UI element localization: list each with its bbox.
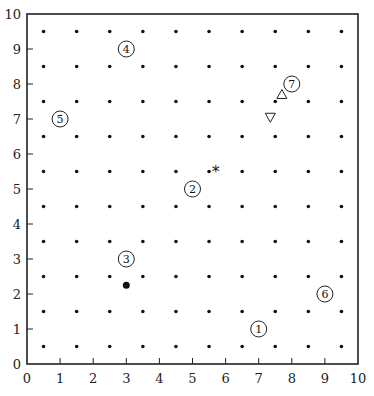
- grid-dot: [307, 170, 311, 174]
- grid-dot: [141, 240, 145, 244]
- grid-dot: [174, 310, 178, 314]
- x-tick-label: 2: [89, 371, 97, 386]
- grid-dot: [207, 345, 211, 349]
- x-tick-label: 10: [350, 371, 367, 386]
- grid-dot: [174, 240, 178, 244]
- grid-dot: [307, 100, 311, 104]
- grid-dot: [340, 345, 344, 349]
- grid-dot: [108, 65, 112, 69]
- grid-dot: [240, 345, 244, 349]
- grid-dot: [108, 30, 112, 34]
- grid-dot: [273, 65, 277, 69]
- grid-dot: [240, 100, 244, 104]
- grid-dot: [42, 345, 46, 349]
- grid-dot: [240, 240, 244, 244]
- y-tick-label: 9: [13, 42, 21, 57]
- triangle-down-marker: [265, 113, 275, 122]
- circled-label-6: 6: [317, 286, 333, 302]
- grid-dot: [75, 30, 79, 34]
- markers: 1234567*: [52, 41, 333, 337]
- grid-dot: [42, 205, 46, 209]
- grid-dot: [75, 275, 79, 279]
- grid-dot: [42, 310, 46, 314]
- grid-dot: [141, 170, 145, 174]
- grid-dot: [75, 135, 79, 139]
- grid-dot: [207, 205, 211, 209]
- grid-dot: [340, 275, 344, 279]
- y-tick-label: 8: [13, 77, 21, 92]
- grid-dot: [273, 310, 277, 314]
- x-tick-label: 7: [255, 371, 263, 386]
- grid-dot: [75, 345, 79, 349]
- grid-dot: [340, 310, 344, 314]
- grid-dot: [273, 345, 277, 349]
- grid-dot: [141, 135, 145, 139]
- grid-dot: [307, 205, 311, 209]
- grid-dot: [240, 65, 244, 69]
- circled-label-4: 4: [118, 41, 134, 57]
- grid-dot: [141, 100, 145, 104]
- axis-ticks: 012345678910012345678910: [4, 7, 366, 386]
- y-tick-label: 6: [13, 147, 21, 162]
- triangle-up-marker: [277, 90, 287, 99]
- grid-dot: [174, 205, 178, 209]
- grid-dot: [340, 205, 344, 209]
- grid-dot: [273, 240, 277, 244]
- x-tick-label: 4: [155, 371, 163, 386]
- grid-dot: [174, 65, 178, 69]
- grid-dot: [240, 205, 244, 209]
- grid-dot: [340, 65, 344, 69]
- svg-text:3: 3: [123, 253, 130, 266]
- circled-label-5: 5: [52, 111, 68, 127]
- y-tick-label: 3: [13, 252, 21, 267]
- grid-dot: [141, 30, 145, 34]
- grid-dot: [141, 345, 145, 349]
- grid-dot: [207, 170, 211, 174]
- grid-dot: [42, 170, 46, 174]
- grid-dot: [141, 310, 145, 314]
- grid-dot: [108, 275, 112, 279]
- y-tick-label: 7: [13, 112, 21, 127]
- grid-dot: [141, 275, 145, 279]
- grid-dot: [340, 100, 344, 104]
- grid-dot: [174, 345, 178, 349]
- grid-dot: [75, 310, 79, 314]
- grid-dot: [174, 170, 178, 174]
- circled-label-7: 7: [284, 76, 300, 92]
- grid-dot: [75, 65, 79, 69]
- circled-label-2: 2: [185, 181, 201, 197]
- y-tick-label: 10: [4, 7, 21, 22]
- y-tick-label: 0: [13, 357, 21, 372]
- asterisk-marker: *: [212, 162, 220, 181]
- x-tick-label: 6: [221, 371, 229, 386]
- grid-dot: [207, 100, 211, 104]
- circled-label-1: 1: [251, 321, 267, 337]
- svg-text:6: 6: [321, 288, 328, 301]
- grid-dot: [108, 170, 112, 174]
- x-tick-label: 0: [23, 371, 31, 386]
- grid-dot: [42, 135, 46, 139]
- grid-dot: [273, 30, 277, 34]
- grid-dot: [141, 65, 145, 69]
- grid-dot: [273, 170, 277, 174]
- grid-dot: [307, 135, 311, 139]
- x-tick-label: 9: [321, 371, 329, 386]
- grid-dot: [108, 100, 112, 104]
- grid-dot: [273, 205, 277, 209]
- grid-dot: [42, 30, 46, 34]
- grid-dot: [174, 275, 178, 279]
- grid-dot: [340, 135, 344, 139]
- svg-text:1: 1: [255, 323, 262, 336]
- y-tick-label: 5: [13, 182, 21, 197]
- scatter-chart: 012345678910012345678910 1234567*: [0, 0, 374, 396]
- grid-dot: [307, 65, 311, 69]
- grid-dot: [307, 240, 311, 244]
- grid-dot: [307, 310, 311, 314]
- y-tick-label: 2: [13, 287, 21, 302]
- grid-dot: [340, 240, 344, 244]
- grid-dot: [174, 30, 178, 34]
- grid-dot: [174, 135, 178, 139]
- grid-dot: [75, 100, 79, 104]
- grid-dot: [42, 100, 46, 104]
- grid-dot: [273, 275, 277, 279]
